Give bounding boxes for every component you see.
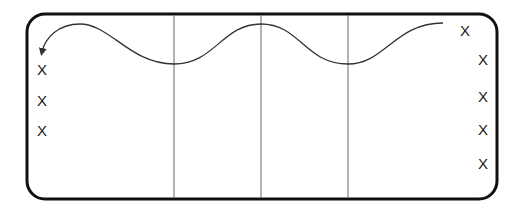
x-marker: X bbox=[478, 88, 488, 105]
markers-left: X X X bbox=[37, 61, 47, 139]
x-marker: X bbox=[478, 155, 488, 172]
x-marker: X bbox=[478, 51, 488, 68]
x-marker: X bbox=[37, 61, 47, 78]
x-marker: X bbox=[478, 121, 488, 138]
wavy-arrow-path bbox=[42, 23, 443, 64]
court-diagram: X X X X X X X X bbox=[0, 0, 521, 212]
divider-lines bbox=[174, 15, 348, 198]
court-border bbox=[27, 14, 497, 199]
markers-right: X X X X X bbox=[460, 22, 488, 172]
x-marker: X bbox=[37, 122, 47, 139]
x-marker: X bbox=[37, 92, 47, 109]
x-marker: X bbox=[460, 22, 470, 39]
